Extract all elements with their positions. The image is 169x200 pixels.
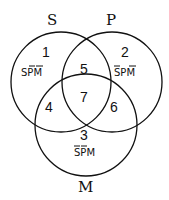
region-7-number: 7 [80, 89, 88, 105]
label-p: P [106, 11, 116, 29]
region-1-term: SPM [21, 67, 42, 78]
region-2-term: SPM [114, 67, 135, 78]
region-6-number: 6 [110, 99, 118, 115]
circle-p [62, 32, 162, 132]
region-1-number: 1 [42, 44, 50, 60]
region-3-term: SPM [74, 147, 95, 158]
circle-s [11, 32, 111, 132]
venn-diagram: S P M 1 SPM 2 SPM 3 SPM 4 5 6 7 [0, 0, 169, 200]
region-4-number: 4 [45, 99, 53, 115]
label-s: S [47, 11, 57, 29]
region-2-number: 2 [121, 44, 129, 60]
region-5-number: 5 [80, 61, 88, 77]
region-3-number: 3 [80, 127, 88, 143]
label-m: M [78, 178, 93, 196]
